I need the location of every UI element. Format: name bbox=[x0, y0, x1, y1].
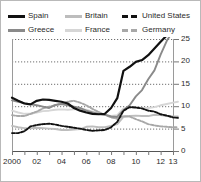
legend-label: France bbox=[85, 25, 110, 35]
legend-label: United States bbox=[142, 11, 190, 21]
legend-dash-swatch bbox=[122, 15, 139, 18]
x-tick-label-08: 08 bbox=[98, 157, 124, 166]
legend-item-greece[interactable]: Greece bbox=[8, 23, 64, 37]
legend-item-united-states[interactable]: United States bbox=[122, 9, 201, 23]
series-line-britain bbox=[12, 115, 178, 130]
legend-item-spain[interactable]: Spain bbox=[8, 9, 64, 23]
series-line-spain bbox=[12, 37, 178, 114]
x-tick-label-06: 06 bbox=[73, 157, 99, 166]
chart-figure: SpainGreeceBritainFranceUnited StatesGer… bbox=[0, 0, 201, 182]
legend-column-2: BritainFrance bbox=[65, 9, 121, 37]
legend-item-france[interactable]: France bbox=[65, 23, 121, 37]
legend-line-swatch bbox=[8, 29, 25, 32]
legend-label: Spain bbox=[28, 11, 48, 21]
x-tick-label-13: 13 bbox=[160, 157, 186, 166]
axis-lines bbox=[13, 39, 180, 152]
y-tick-label-0: 0 bbox=[181, 146, 201, 155]
y-tick-label-10: 10 bbox=[181, 101, 201, 110]
y-tick-label-25: 25 bbox=[181, 34, 201, 43]
legend-item-britain[interactable]: Britain bbox=[65, 9, 121, 23]
data-series bbox=[12, 37, 178, 133]
x-tick-label-10: 10 bbox=[123, 157, 149, 166]
legend-dash-swatch bbox=[122, 29, 139, 32]
grid-lines bbox=[12, 40, 173, 152]
legend-line-swatch bbox=[65, 29, 82, 32]
legend-label: Britain bbox=[85, 11, 108, 21]
chart-plot-area: 0510152025200002040608101213 bbox=[1, 37, 201, 182]
legend-column-3: United StatesGermany bbox=[122, 9, 201, 37]
legend-label: Germany bbox=[142, 25, 175, 35]
y-tick-label-5: 5 bbox=[181, 124, 201, 133]
x-tick-label-2000: 2000 bbox=[0, 157, 25, 166]
y-tick-label-20: 20 bbox=[181, 56, 201, 65]
legend-line-swatch bbox=[65, 15, 82, 18]
x-tick-label-04: 04 bbox=[49, 157, 75, 166]
legend-label: Greece bbox=[28, 25, 54, 35]
legend-column-1: SpainGreece bbox=[8, 9, 64, 37]
legend-line-swatch bbox=[8, 15, 25, 18]
x-tick-label-02: 02 bbox=[24, 157, 50, 166]
chart-legend: SpainGreeceBritainFranceUnited StatesGer… bbox=[8, 9, 198, 37]
y-tick-label-15: 15 bbox=[181, 79, 201, 88]
